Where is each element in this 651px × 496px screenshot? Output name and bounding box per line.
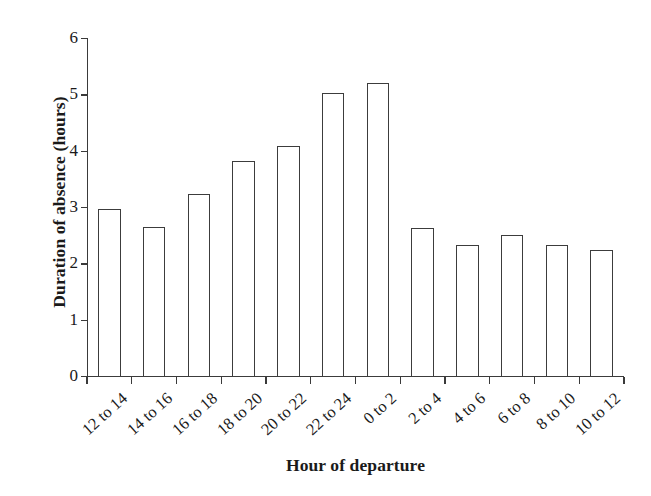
bar [322,93,345,377]
y-tick-label: 5 [70,84,79,104]
x-tick-mark [444,377,445,384]
y-tick-label: 0 [70,366,79,386]
y-tick-mark [81,151,87,152]
bar [367,83,390,377]
x-tick-mark [221,377,222,384]
x-tick-mark [400,377,401,384]
bar [456,245,479,377]
x-tick-mark [176,377,177,384]
bar [98,209,121,377]
y-tick-label: 3 [70,197,79,217]
bar [143,227,166,377]
x-tick-mark [131,377,132,384]
bar [277,146,300,377]
y-axis-title: Duration of absence (hours) [46,37,72,367]
y-tick-mark [81,38,87,39]
bar-chart-figure: Duration of absence (hours) 0123456 12 t… [0,0,651,496]
bar [501,235,524,377]
x-tick-mark [579,377,580,384]
x-tick-mark [355,377,356,384]
x-tick-mark [265,377,266,384]
y-tick-mark [81,320,87,321]
y-axis-line [87,38,88,376]
bar [232,161,255,377]
x-tick-mark [310,377,311,384]
bar [188,194,211,377]
x-tick-mark [623,377,624,384]
x-tick-mark [489,377,490,384]
x-axis-title: Hour of departure [87,455,624,476]
plot-area: 0123456 [87,38,624,376]
bar [546,245,569,377]
y-tick-label: 1 [70,310,79,330]
bar [590,250,613,377]
y-tick-mark [81,263,87,264]
y-tick-label: 2 [70,253,79,273]
bar [411,228,434,377]
y-tick-mark [81,207,87,208]
x-tick-mark [86,377,87,384]
y-tick-label: 6 [70,28,79,48]
y-tick-label: 4 [70,141,79,161]
y-tick-mark [81,94,87,95]
x-tick-mark [534,377,535,384]
